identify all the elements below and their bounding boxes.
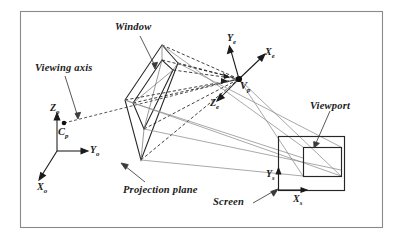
figure-frame <box>21 12 383 228</box>
projection-rays <box>125 45 341 176</box>
axis-subscript: s <box>300 199 303 206</box>
center-of-projection-dot <box>62 121 67 126</box>
axis-label-x-world: Xo <box>37 182 47 195</box>
viewport-rect <box>304 148 342 177</box>
projection-plane-label: Projection plane <box>123 185 198 196</box>
axis-label-z-world: Zo <box>50 103 60 116</box>
axis-subscript: e <box>216 103 219 110</box>
view-frustum-dashed <box>125 45 239 160</box>
figure-geometry <box>0 0 399 239</box>
viewport-label: Viewport <box>310 101 350 112</box>
figure-canvas: Window Viewing axis Projection plane Vie… <box>0 0 399 239</box>
window-label: Window <box>115 22 151 33</box>
axis-label-x-eye: Xe <box>265 47 275 60</box>
screen-axes <box>276 168 307 192</box>
viewing-axis-label: Viewing axis <box>35 63 93 74</box>
point-symbol: C <box>58 126 65 137</box>
point-label-cp: Cp <box>58 127 68 140</box>
axis-label-x-screen: Xs <box>293 194 302 207</box>
point-subscript: p <box>247 86 250 93</box>
axis-subscript: e <box>233 38 236 45</box>
axis-subscript: o <box>44 187 47 194</box>
axis-subscript: s <box>272 174 275 181</box>
axis-symbol: X <box>265 46 272 57</box>
axis-symbol: X <box>37 181 44 192</box>
axis-label-z-eye: Ze <box>210 98 219 111</box>
axis-label-y-eye: Ye <box>227 33 236 46</box>
axis-label-y-screen: Ys <box>266 169 275 182</box>
point-label-vp: Vp <box>240 81 250 94</box>
axis-subscript: o <box>56 108 59 115</box>
axis-subscript: o <box>96 150 99 157</box>
screen-label: Screen <box>213 197 244 208</box>
point-subscript: p <box>65 132 68 139</box>
axis-label-y-world: Yo <box>90 145 100 158</box>
axis-symbol: X <box>293 193 300 204</box>
axis-subscript: e <box>272 52 275 59</box>
point-symbol: V <box>240 80 247 91</box>
